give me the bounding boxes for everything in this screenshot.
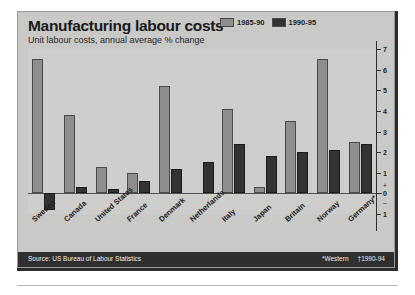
bar-group xyxy=(344,49,376,214)
bar-group-inner xyxy=(186,49,218,214)
axis-tick xyxy=(377,132,381,133)
bar-group xyxy=(313,49,345,214)
bar[interactable] xyxy=(329,150,340,193)
bar[interactable] xyxy=(64,115,75,193)
axis-tick xyxy=(377,49,381,50)
axis-tick-label: 6 xyxy=(383,66,387,73)
bar-group-inner xyxy=(313,49,345,214)
bottom-rule xyxy=(17,285,398,286)
axis-minus-sign: – xyxy=(383,199,387,206)
bar[interactable] xyxy=(139,181,150,193)
chart-legend: 1985-90 1990-95 xyxy=(220,18,316,27)
chart-screenshot: Manufacturing labour costs Unit labour c… xyxy=(0,0,415,295)
legend-label: 1985-90 xyxy=(237,18,265,27)
chart-footer: Source: US Bureau of Labour Statistics *… xyxy=(18,252,394,267)
bar-group xyxy=(249,49,281,214)
chart-title: Manufacturing labour costs xyxy=(28,17,223,35)
axis-tick-label: 4 xyxy=(383,107,387,114)
bar-group xyxy=(28,49,60,214)
bar[interactable] xyxy=(349,142,360,194)
legend-item-1990-95: 1990-95 xyxy=(272,18,317,27)
legend-label: 1990-95 xyxy=(289,18,317,27)
bar[interactable] xyxy=(159,86,170,193)
legend-swatch-icon xyxy=(220,18,234,27)
bar-group xyxy=(60,49,92,214)
bar-group-inner xyxy=(28,49,60,214)
bar[interactable] xyxy=(285,121,296,193)
axis-tick-label: 2 xyxy=(383,149,387,156)
footnotes: *Western †1990-94 xyxy=(322,255,385,262)
bar[interactable] xyxy=(234,144,245,194)
axis-tick xyxy=(377,173,381,174)
axis-tick-label: 7 xyxy=(383,46,387,53)
bar-group-inner xyxy=(91,49,123,214)
source-text: Source: US Bureau of Labour Statistics xyxy=(28,255,141,262)
axis-plus-sign: + xyxy=(383,182,387,189)
legend-swatch-icon xyxy=(272,18,286,27)
bar[interactable] xyxy=(222,109,233,194)
bar[interactable] xyxy=(108,189,119,193)
bar-group xyxy=(281,49,313,214)
bar-group-inner xyxy=(344,49,376,214)
bar[interactable] xyxy=(171,169,182,194)
chart-subtitle: Unit labour costs, annual average % chan… xyxy=(28,35,205,45)
axis-tick-label: 0 xyxy=(383,190,387,197)
axis-tick xyxy=(377,214,381,215)
bar[interactable] xyxy=(361,144,372,194)
chart-panel: Manufacturing labour costs Unit labour c… xyxy=(17,11,398,271)
bar-group-inner xyxy=(218,49,250,214)
bar-group-inner xyxy=(249,49,281,214)
bar[interactable] xyxy=(203,162,214,193)
y-axis: 765432101+– xyxy=(376,41,381,231)
bar-group xyxy=(186,49,218,214)
bar[interactable] xyxy=(266,156,277,193)
bar[interactable] xyxy=(32,59,43,193)
bar-group-inner xyxy=(281,49,313,214)
footnote-years: †1990-94 xyxy=(358,255,385,262)
footnote-western: *Western xyxy=(322,255,349,262)
bar[interactable] xyxy=(297,152,308,193)
axis-tick xyxy=(377,90,381,91)
bar-group xyxy=(155,49,187,214)
axis-tick xyxy=(377,193,381,194)
bar-group xyxy=(218,49,250,214)
legend-item-1985-90: 1985-90 xyxy=(220,18,265,27)
bar[interactable] xyxy=(96,167,107,194)
bar-group-inner xyxy=(60,49,92,214)
axis-tick-label: 3 xyxy=(383,128,387,135)
axis-tick xyxy=(377,70,381,71)
axis-tick xyxy=(377,152,381,153)
axis-tick-label: 1 xyxy=(383,211,387,218)
axis-tick-label: 1 xyxy=(383,169,387,176)
plot-area xyxy=(28,49,376,214)
bar[interactable] xyxy=(317,59,328,193)
bar[interactable] xyxy=(254,187,265,193)
bar-group-inner xyxy=(155,49,187,214)
bar-groups xyxy=(28,49,376,214)
axis-tick xyxy=(377,111,381,112)
bar-group xyxy=(91,49,123,214)
bar[interactable] xyxy=(76,187,87,193)
axis-tick-label: 5 xyxy=(383,87,387,94)
